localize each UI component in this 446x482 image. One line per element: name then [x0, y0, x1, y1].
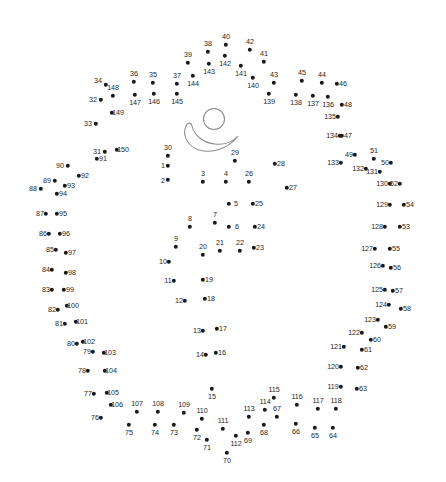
dot-67[interactable]	[275, 415, 279, 419]
dot-4[interactable]	[224, 180, 228, 184]
dot-137[interactable]	[311, 94, 315, 98]
dot-120[interactable]	[339, 365, 343, 369]
dot-86[interactable]	[47, 232, 51, 236]
dot-79[interactable]	[91, 350, 95, 354]
dot-82[interactable]	[56, 308, 60, 312]
dot-49[interactable]	[353, 153, 357, 157]
dot-90[interactable]	[66, 164, 70, 168]
dot-88[interactable]	[39, 187, 43, 191]
dot-128[interactable]	[383, 225, 387, 229]
dot-135[interactable]	[336, 115, 340, 119]
dot-20[interactable]	[201, 253, 205, 257]
dot-110[interactable]	[200, 417, 204, 421]
dot-126[interactable]	[381, 264, 385, 268]
dot-64[interactable]	[331, 426, 335, 430]
dot-21[interactable]	[218, 249, 222, 253]
dot-32[interactable]	[99, 98, 103, 102]
dot-1[interactable]	[166, 164, 170, 168]
dot-124[interactable]	[387, 303, 391, 307]
dot-111[interactable]	[221, 427, 225, 431]
dot-66[interactable]	[294, 422, 298, 426]
dot-50[interactable]	[389, 161, 393, 165]
dot-116[interactable]	[295, 403, 299, 407]
dot-119[interactable]	[339, 385, 343, 389]
dot-11[interactable]	[172, 279, 176, 283]
dot-113[interactable]	[247, 415, 251, 419]
dot-5[interactable]	[227, 202, 231, 206]
dot-112[interactable]	[234, 434, 238, 438]
dot-145[interactable]	[175, 92, 179, 96]
dot-52[interactable]	[398, 182, 402, 186]
dot-3[interactable]	[201, 180, 205, 184]
dot-85[interactable]	[54, 248, 58, 252]
dot-87[interactable]	[44, 212, 48, 216]
dot-76[interactable]	[99, 416, 103, 420]
dot-121[interactable]	[342, 345, 346, 349]
dot-35[interactable]	[151, 81, 155, 85]
dot-44[interactable]	[320, 81, 324, 85]
dot-115[interactable]	[272, 396, 276, 400]
dot-30[interactable]	[166, 154, 170, 158]
dot-40[interactable]	[224, 43, 228, 47]
dot-51[interactable]	[372, 157, 376, 161]
dot-129[interactable]	[388, 203, 392, 207]
dot-143[interactable]	[207, 62, 211, 66]
dot-109[interactable]	[182, 411, 186, 415]
dot-131[interactable]	[378, 170, 382, 174]
dot-7[interactable]	[213, 221, 217, 225]
dot-15[interactable]	[210, 387, 214, 391]
dot-69[interactable]	[246, 431, 250, 435]
dot-144[interactable]	[191, 74, 195, 78]
dot-140[interactable]	[251, 76, 255, 80]
dot-73[interactable]	[172, 423, 176, 427]
dot-9[interactable]	[174, 245, 178, 249]
dot-45[interactable]	[300, 79, 304, 83]
dot-108[interactable]	[156, 410, 160, 414]
dot-77[interactable]	[92, 392, 96, 396]
dot-78[interactable]	[86, 369, 90, 373]
dot-43[interactable]	[272, 81, 276, 85]
dot-33[interactable]	[94, 122, 98, 126]
dot-89[interactable]	[53, 179, 57, 183]
dot-107[interactable]	[135, 410, 139, 414]
dot-122[interactable]	[360, 331, 364, 335]
dot-6[interactable]	[227, 225, 231, 229]
dot-42[interactable]	[248, 48, 252, 52]
dot-139[interactable]	[267, 92, 271, 96]
dot-127[interactable]	[373, 247, 377, 251]
dot-80[interactable]	[75, 342, 79, 346]
dot-12[interactable]	[183, 299, 187, 303]
dot-74[interactable]	[153, 423, 157, 427]
dot-13[interactable]	[201, 329, 205, 333]
dot-37[interactable]	[175, 82, 179, 86]
dot-29[interactable]	[233, 159, 237, 163]
dot-141[interactable]	[239, 64, 243, 68]
dot-41[interactable]	[262, 60, 266, 64]
dot-70[interactable]	[225, 451, 229, 455]
dot-148[interactable]	[111, 94, 115, 98]
dot-8[interactable]	[188, 225, 192, 229]
dot-36[interactable]	[132, 80, 136, 84]
dot-22[interactable]	[238, 249, 242, 253]
dot-133[interactable]	[339, 161, 343, 165]
dot-123[interactable]	[376, 318, 380, 322]
dot-142[interactable]	[223, 54, 227, 58]
dot-39[interactable]	[186, 61, 190, 65]
dot-38[interactable]	[206, 50, 210, 54]
dot-75[interactable]	[127, 423, 131, 427]
dot-71[interactable]	[205, 438, 209, 442]
dot-146[interactable]	[152, 92, 156, 96]
dot-83[interactable]	[50, 288, 54, 292]
dot-68[interactable]	[262, 423, 266, 427]
dot-26[interactable]	[247, 180, 251, 184]
dot-10[interactable]	[167, 260, 171, 264]
dot-14[interactable]	[204, 353, 208, 357]
dot-147[interactable]	[133, 93, 137, 97]
dot-118[interactable]	[334, 407, 338, 411]
dot-138[interactable]	[294, 93, 298, 97]
dot-72[interactable]	[195, 428, 199, 432]
dot-84[interactable]	[50, 268, 54, 272]
dot-117[interactable]	[316, 407, 320, 411]
dot-81[interactable]	[63, 322, 67, 326]
dot-136[interactable]	[326, 95, 330, 99]
